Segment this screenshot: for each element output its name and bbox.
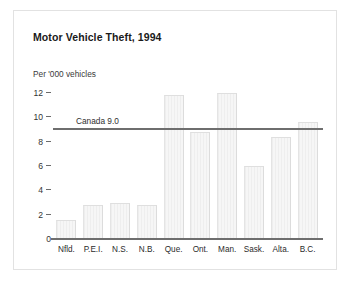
y-axis-unit-label: Per '000 vehicles — [33, 69, 96, 79]
y-axis-tick-label: 12 — [33, 88, 43, 98]
y-axis-tick-mark — [46, 189, 51, 190]
y-axis-tick-mark — [46, 141, 51, 142]
bar — [164, 95, 184, 239]
bar — [298, 122, 318, 239]
y-axis-tick-mark — [46, 165, 51, 166]
y-axis-tick-mark — [46, 214, 51, 215]
y-axis-tick: 12 — [25, 88, 51, 98]
bar — [83, 205, 103, 239]
bar — [244, 166, 264, 239]
plot-area — [53, 93, 321, 239]
y-axis-tick-mark — [46, 116, 51, 117]
reference-line — [53, 128, 323, 130]
bar — [110, 203, 130, 240]
y-axis-tick: 4 — [25, 185, 51, 195]
reference-line-label: Canada 9.0 — [76, 116, 119, 126]
y-axis-tick: 0 — [25, 234, 51, 244]
y-axis-tick: 10 — [25, 112, 51, 122]
y-axis-tick: 2 — [25, 210, 51, 220]
y-axis-tick: 6 — [25, 161, 51, 171]
chart-title: Motor Vehicle Theft, 1994 — [33, 31, 162, 43]
y-axis-tick-label: 4 — [38, 185, 43, 195]
bar — [217, 93, 237, 239]
y-axis-tick-label: 8 — [38, 137, 43, 147]
y-axis-tick-label: 2 — [38, 210, 43, 220]
bar — [56, 220, 76, 239]
x-axis-tick-label: B.C. — [291, 245, 325, 254]
x-axis-line — [51, 238, 323, 240]
y-axis-tick-label: 10 — [33, 112, 43, 122]
y-axis-tick-label: 6 — [38, 161, 43, 171]
bar — [137, 205, 157, 239]
y-axis-tick: 8 — [25, 137, 51, 147]
bar — [190, 132, 210, 239]
y-axis-tick-mark — [46, 92, 51, 93]
bar — [271, 137, 291, 239]
